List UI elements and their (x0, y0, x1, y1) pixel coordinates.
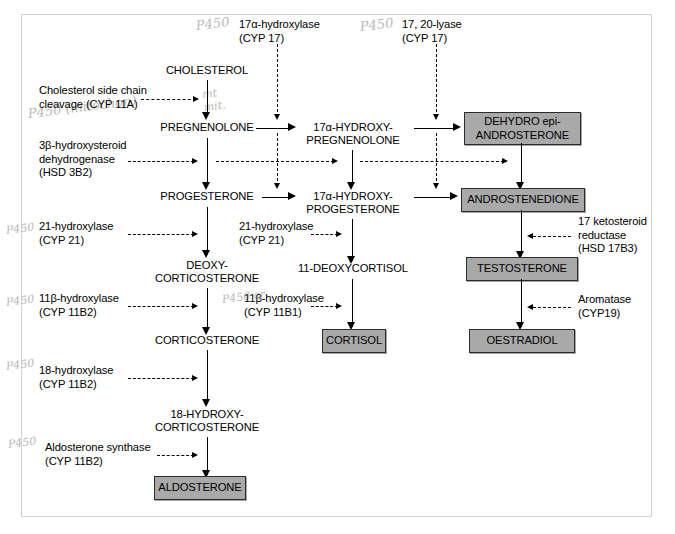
pencil-annotation-scc-arrow: mt mit. (201, 85, 226, 113)
arrowhead-aromatase (527, 304, 533, 310)
arrow-pregnenolone-to-17ohpreg (256, 128, 292, 129)
dashed-cyp21-mid-arrow (311, 234, 338, 235)
arrowhead-hsd3b2-c (502, 158, 508, 164)
arrow-17ohpreg-to-dhea (414, 128, 457, 129)
dashed-hsd3b2-segment-b (216, 161, 334, 162)
arrow-deoxycortisol-to-cortisol (352, 279, 353, 327)
arrowhead-pregnenolone-progesterone (202, 182, 210, 190)
arrow-corticosterone-to-18oh (207, 350, 208, 404)
product-box-aldosterone[interactable]: ALDOSTERONE (154, 476, 246, 500)
dashed-cyp17-17alpha-lower (277, 133, 278, 181)
node-pregnenolone: PREGNENOLONE (147, 121, 267, 134)
product-box-dehydroepiandrosterone[interactable]: DEHYDRO epi- ANDROSTERONE (464, 112, 581, 145)
diagram-canvas: P450 P450 mt mit. P450 (mitochon) P450 P… (0, 0, 675, 534)
arrowhead-cyp11b2-18 (192, 375, 198, 381)
dashed-scc-arrow (141, 99, 196, 100)
enzyme-label-21-hydroxylase-left: 21-hydroxylase (CYP 21) (39, 220, 113, 247)
arrow-testosterone-to-oestradiol (521, 279, 522, 327)
enzyme-label-17-20-lyase: 17, 20-lyase (CYP 17) (402, 18, 462, 45)
enzyme-label-aromatase: Aromatase (CYP19) (578, 293, 631, 320)
arrowhead-17ohpreg-17ohprog (347, 182, 355, 190)
arrow-17ohpreg-to-17ohprog (352, 150, 353, 186)
arrowhead-progesterone-17ohprog (288, 192, 296, 200)
enzyme-label-18-hydroxylase: 18-hydroxylase (CYP 11B2) (39, 364, 113, 391)
dashed-cyp21-left-arrow (128, 234, 194, 235)
arrow-17ohprog-to-androstenedione (414, 197, 454, 198)
dashed-hsd3b2-segment-a (128, 161, 194, 162)
arrowhead-scc (193, 96, 199, 102)
arrow-dhea-to-androstenedione (521, 143, 522, 187)
enzyme-label-3beta-hsd: 3β-hydroxysteroid dehydrogenase (HSD 3B2… (39, 139, 126, 180)
enzyme-label-cholesterol-side-chain-cleavage: Cholesterol side chain cleavage (CYP 11A… (39, 84, 147, 111)
dashed-cyp11b2-18-arrow (128, 378, 194, 379)
dashed-cyp17-17alpha-upper (277, 44, 278, 117)
dashed-hsd3b2-segment-c (360, 161, 504, 162)
arrowhead-cyp11b2-11beta (192, 303, 198, 309)
product-box-androstenedione[interactable]: ANDROSTENEDIONE (461, 188, 585, 212)
product-box-testosterone[interactable]: TESTOSTERONE (466, 257, 578, 281)
arrow-cholesterol-to-pregnenolone (207, 80, 208, 116)
arrowhead-cyp21-mid (336, 231, 342, 237)
node-11-deoxycortisol: 11-DEOXYCORTISOL (292, 262, 414, 275)
arrowhead-cyp17-lyase-upper (433, 114, 439, 120)
arrowhead-aldosterone-synthase (192, 452, 198, 458)
node-cholesterol: CHOLESTEROL (147, 64, 267, 77)
node-deoxycorticosterone: DEOXY- CORTICOSTERONE (142, 259, 272, 285)
arrowhead-cyp17-17alpha-lower (274, 183, 280, 189)
dashed-hsd17b3-arrow (533, 236, 571, 237)
arrowhead-17ohprog-androstenedione (450, 192, 458, 200)
node-18-hydroxycorticosterone: 18-HYDROXY- CORTICOSTERONE (142, 408, 272, 434)
dashed-aldosterone-synthase-arrow (157, 455, 194, 456)
arrowhead-17ohpreg-dhea (453, 123, 461, 131)
arrowhead-cyp17-17alpha-upper (274, 114, 280, 120)
arrowhead-cyp21-left (192, 231, 198, 237)
arrow-pregnenolone-to-progesterone (207, 138, 208, 186)
product-box-cortisol[interactable]: CORTISOL (322, 329, 386, 353)
arrowhead-hsd3b2-a (192, 158, 198, 164)
enzyme-label-17-ketosteroid-reductase: 17 ketosteroid reductase (HSD 17B3) (578, 215, 647, 256)
enzyme-label-11beta-hydroxylase-cyp11b2: 11β-hydroxylase (CYP 11B2) (39, 292, 119, 319)
arrowhead-cholesterol-pregnenolone (202, 112, 210, 120)
dashed-aromatase-arrow (533, 307, 571, 308)
product-box-oestradiol[interactable]: OESTRADIOL (469, 329, 575, 353)
dashed-cyp17-lyase-lower (436, 133, 437, 181)
arrowhead-progesterone-doc (202, 250, 210, 258)
arrow-androstenedione-to-testosterone (521, 210, 522, 256)
arrow-doc-to-corticosterone (207, 288, 208, 332)
arrowhead-hsd3b2-b (332, 158, 338, 164)
node-17a-hydroxyprogesterone: 17α-HYDROXY- PROGESTERONE (297, 190, 409, 216)
dashed-cyp17-lyase-upper (436, 44, 437, 117)
arrowhead-cyp17-lyase-lower (433, 183, 439, 189)
dashed-cyp11b2-11beta-arrow (128, 306, 194, 307)
arrowhead-pregnenolone-17ohpreg (288, 123, 296, 131)
arrow-17ohprog-to-deoxycortisol (352, 219, 353, 261)
arrowhead-cyp11b1-11beta (336, 303, 342, 309)
node-corticosterone: CORTICOSTERONE (142, 334, 272, 347)
arrowhead-hsd17b3 (527, 233, 533, 239)
arrowhead-corticosterone-18oh (202, 399, 210, 407)
enzyme-label-21-hydroxylase-mid: 21-hydroxylase (CYP 21) (239, 220, 313, 247)
enzyme-label-17alpha-hydroxylase: 17α-hydroxylase (CYP 17) (239, 18, 320, 45)
enzyme-label-aldosterone-synthase: Aldosterone synthase (CYP 11B2) (45, 441, 151, 468)
node-progesterone: PROGESTERONE (147, 190, 267, 203)
enzyme-label-11beta-hydroxylase-cyp11b1: 11β-hydroxylase (CYP 11B1) (244, 292, 324, 319)
arrow-progesterone-to-doc (207, 207, 208, 255)
node-17a-hydroxypregnenolone: 17α-HYDROXY- PREGNENOLONE (297, 121, 409, 147)
